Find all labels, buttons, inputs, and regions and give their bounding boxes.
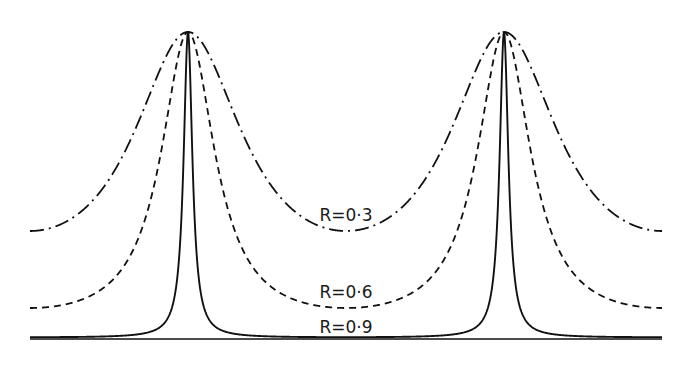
label-r-0-3: R=0·3 (319, 205, 372, 225)
curve-r-0-6 (30, 32, 662, 308)
curve-r-0-3 (30, 32, 662, 231)
label-r-0-9: R=0·9 (319, 317, 372, 337)
label-r-0-6: R=0·6 (319, 282, 372, 302)
airy-function-chart: R=0·3 R=0·6 R=0·9 (0, 0, 689, 374)
